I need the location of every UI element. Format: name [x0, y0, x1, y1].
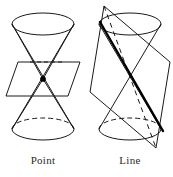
left-upper-rim-ellipse: [12, 13, 74, 35]
line-panel-group: [90, 6, 170, 148]
point-panel-group: [6, 13, 80, 140]
figure-canvas: [0, 0, 173, 177]
caption-line: Line: [87, 155, 173, 166]
left-lower-base-hidden-arc: [12, 118, 74, 129]
point-intersection-marker: [40, 76, 45, 81]
caption-point: Point: [0, 155, 86, 166]
left-lower-base-visible-arc: [12, 129, 74, 140]
conic-sections-figure: [0, 0, 173, 177]
